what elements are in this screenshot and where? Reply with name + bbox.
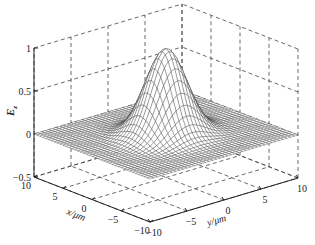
x-tick-label: −5 [108,214,119,225]
x-tick-label: 10 [21,180,31,191]
y-tick-label: −10 [146,227,162,238]
z-tick-label: 0.5 [19,86,32,97]
surface-plot: 10.50−0.51050−5−10−10−50510 Ez x/μm y/μm [0,0,315,245]
y-tick-label: 10 [297,183,307,194]
y-tick-label: 0 [226,205,231,216]
surface-mesh [34,49,298,180]
y-tick-label: 5 [263,194,268,205]
y-axis-label: y/μm [205,212,228,228]
x-tick-label: 5 [53,191,58,202]
z-axis-label: Ez [4,106,19,117]
z-tick-label: 1 [26,43,31,54]
y-tick-label: −5 [186,216,197,227]
z-tick-label: 0 [26,129,31,140]
